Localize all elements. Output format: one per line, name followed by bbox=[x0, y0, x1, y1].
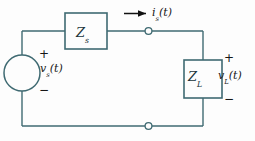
current-arrow-icon bbox=[124, 10, 146, 17]
source-impedance-label: Zs bbox=[76, 26, 89, 39]
voltage-source-symbol bbox=[4, 55, 40, 91]
load-minus-sign: − bbox=[224, 93, 234, 105]
top-terminal-icon bbox=[145, 28, 152, 35]
source-current-label: is(t) bbox=[152, 7, 172, 18]
source-plus-sign: + bbox=[39, 48, 49, 60]
bottom-terminal-icon bbox=[145, 123, 152, 130]
source-voltage-label: vs(t) bbox=[40, 63, 63, 74]
load-voltage-label: vL(t) bbox=[218, 70, 242, 81]
load-plus-sign: + bbox=[224, 52, 234, 64]
load-impedance-label: ZL bbox=[188, 70, 202, 83]
circuit-schematic bbox=[0, 0, 255, 141]
circuit-diagram-canvas: Zs ZL is(t) vs(t) vL(t) + − + − bbox=[0, 0, 255, 141]
source-minus-sign: − bbox=[39, 84, 49, 96]
